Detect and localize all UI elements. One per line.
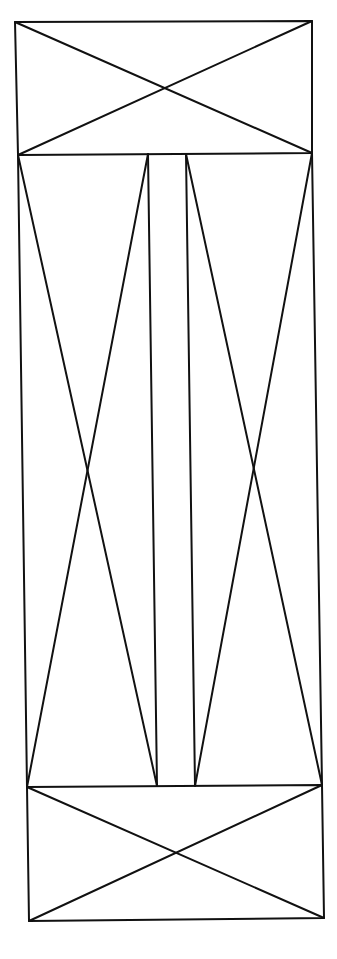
- left-inner-edge: [148, 154, 157, 786]
- bottom-panel-diagonal-2: [29, 785, 322, 921]
- top-panel: [15, 21, 312, 155]
- middle-left-panel: [18, 154, 157, 787]
- right-outer-edge: [312, 153, 322, 785]
- left-diagonal-2: [27, 154, 148, 787]
- bottom-panel: [27, 785, 324, 921]
- x-braced-frame-diagram: [0, 0, 337, 959]
- right-inner-edge: [186, 154, 195, 786]
- middle-right-panel: [186, 153, 322, 786]
- left-outer-edge: [18, 155, 27, 787]
- right-diagonal-2: [195, 153, 312, 786]
- top-panel-diagonal-2: [18, 21, 312, 155]
